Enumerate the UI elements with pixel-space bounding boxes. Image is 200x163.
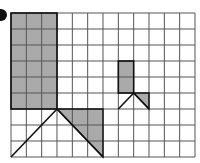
small-diagonal-line (118, 93, 133, 109)
grid-diagram (0, 0, 200, 163)
bullet-marker (0, 9, 7, 21)
large-diagonal-line (11, 109, 57, 157)
